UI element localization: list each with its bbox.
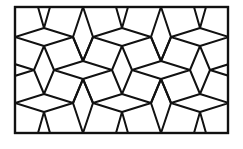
pentagon-edge	[229, 37, 239, 61]
pentagon-edge	[229, 79, 239, 103]
pentagon-edge	[5, 79, 15, 103]
pentagon-edge	[5, 37, 15, 61]
tiling-diagram	[0, 0, 243, 149]
